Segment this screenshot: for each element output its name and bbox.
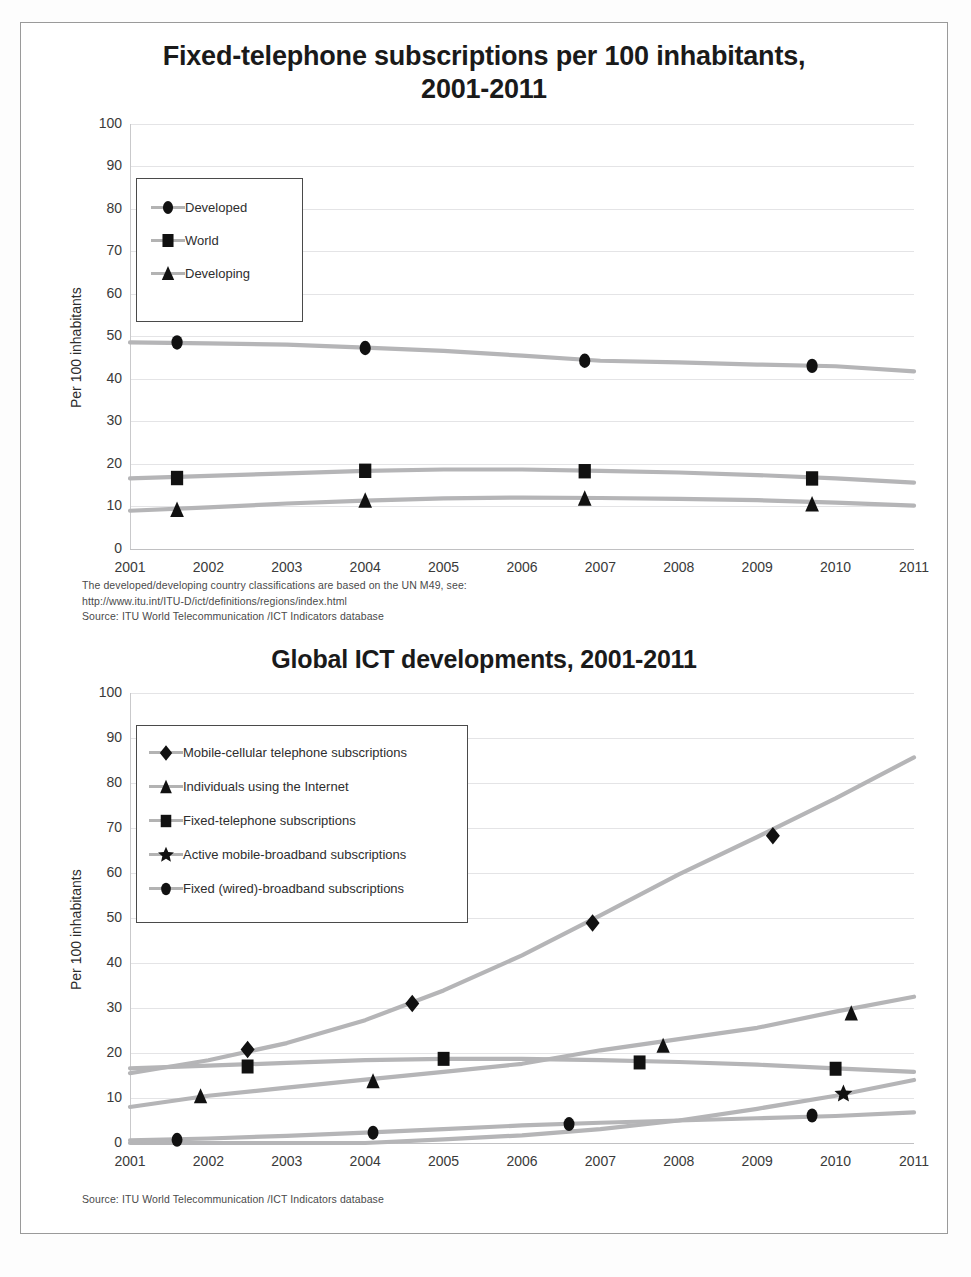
data-point-marker bbox=[806, 359, 817, 373]
data-point-marker bbox=[806, 471, 818, 485]
legend-marker-triangle-icon bbox=[149, 770, 183, 804]
chart1-title-line1: Fixed-telephone subscriptions per 100 in… bbox=[104, 40, 864, 73]
data-point-marker bbox=[438, 1051, 450, 1065]
x-tick-label: 2006 bbox=[492, 1153, 552, 1169]
x-tick-label: 2002 bbox=[178, 1153, 238, 1169]
x-tick-label: 2005 bbox=[414, 1153, 474, 1169]
gridline bbox=[130, 549, 914, 550]
legend-marker-circle-icon bbox=[151, 191, 185, 224]
x-tick-label: 2007 bbox=[570, 559, 630, 575]
chart1-title-line2: 2001-2011 bbox=[104, 73, 864, 106]
y-tick-label: 70 bbox=[86, 245, 122, 255]
chart2-y-axis-label: Per 100 inhabitants bbox=[68, 869, 84, 990]
x-tick-label: 2011 bbox=[884, 559, 944, 575]
y-tick-label: 80 bbox=[86, 203, 122, 213]
x-tick-label: 2002 bbox=[178, 559, 238, 575]
y-tick-label: 90 bbox=[86, 732, 122, 742]
data-point-marker bbox=[579, 464, 591, 478]
x-tick-label: 2009 bbox=[727, 559, 787, 575]
legend-marker-star-icon bbox=[149, 838, 183, 872]
legend-item[interactable]: Fixed (wired)-broadband subscriptions bbox=[137, 872, 467, 906]
data-point-marker bbox=[807, 1108, 818, 1122]
legend-marker-square-icon bbox=[151, 224, 185, 257]
x-tick-label: 2001 bbox=[100, 559, 160, 575]
x-tick-label: 2010 bbox=[806, 559, 866, 575]
chart-global-ict: Global ICT developments, 2001-2011 Per 1… bbox=[24, 640, 944, 1230]
y-tick-label: 20 bbox=[86, 458, 122, 468]
source-note: http://www.itu.int/ITU-D/ict/definitions… bbox=[82, 594, 347, 609]
series-line bbox=[130, 342, 914, 371]
series-line bbox=[130, 469, 914, 482]
data-point-marker bbox=[579, 353, 590, 367]
series-line bbox=[130, 497, 914, 510]
y-tick-label: 0 bbox=[86, 1137, 122, 1147]
y-tick-label: 10 bbox=[86, 1092, 122, 1102]
chart2-legend: Mobile-cellular telephone subscriptionsI… bbox=[136, 725, 468, 923]
y-tick-label: 30 bbox=[86, 1002, 122, 1012]
data-point-marker bbox=[634, 1055, 646, 1069]
y-tick-label: 90 bbox=[86, 160, 122, 170]
y-tick-label: 10 bbox=[86, 500, 122, 510]
chart1-legend: DevelopedWorldDeveloping bbox=[136, 178, 303, 322]
y-tick-label: 20 bbox=[86, 1047, 122, 1057]
y-tick-label: 40 bbox=[86, 373, 122, 383]
data-point-marker bbox=[171, 335, 182, 349]
x-tick-label: 2008 bbox=[649, 559, 709, 575]
legend-item[interactable]: Developed bbox=[137, 191, 302, 224]
data-point-marker bbox=[834, 1084, 852, 1101]
y-tick-label: 50 bbox=[86, 912, 122, 922]
x-tick-label: 2009 bbox=[727, 1153, 787, 1169]
legend-item[interactable]: Fixed-telephone subscriptions bbox=[137, 804, 467, 838]
legend-item[interactable]: Developing bbox=[137, 257, 302, 290]
legend-label: Mobile-cellular telephone subscriptions bbox=[183, 745, 407, 760]
y-tick-label: 0 bbox=[86, 543, 122, 553]
y-tick-label: 30 bbox=[86, 415, 122, 425]
source-note: Source: ITU World Telecommunication /ICT… bbox=[82, 609, 384, 624]
x-tick-label: 2006 bbox=[492, 559, 552, 575]
legend-item[interactable]: World bbox=[137, 224, 302, 257]
data-point-marker bbox=[171, 471, 183, 485]
x-tick-label: 2005 bbox=[414, 559, 474, 575]
chart1-title: Fixed-telephone subscriptions per 100 in… bbox=[104, 40, 864, 106]
legend-label: Developed bbox=[185, 200, 247, 215]
data-point-marker bbox=[172, 1132, 183, 1146]
x-tick-label: 2003 bbox=[257, 559, 317, 575]
y-tick-label: 100 bbox=[86, 118, 122, 128]
legend-label: Fixed-telephone subscriptions bbox=[183, 813, 356, 828]
data-point-marker bbox=[368, 1125, 379, 1139]
legend-marker-diamond-icon bbox=[149, 736, 183, 770]
x-tick-label: 2004 bbox=[335, 559, 395, 575]
legend-marker-triangle-icon bbox=[151, 257, 185, 290]
data-point-marker bbox=[359, 463, 371, 477]
source-note: The developed/developing country classif… bbox=[82, 578, 467, 593]
x-tick-label: 2010 bbox=[806, 1153, 866, 1169]
y-tick-label: 60 bbox=[86, 288, 122, 298]
y-tick-label: 60 bbox=[86, 867, 122, 877]
legend-label: Fixed (wired)-broadband subscriptions bbox=[183, 881, 404, 896]
legend-marker-circle-icon bbox=[149, 872, 183, 906]
x-tick-label: 2004 bbox=[335, 1153, 395, 1169]
legend-item[interactable]: Individuals using the Internet bbox=[137, 770, 467, 804]
source-note: Source: ITU World Telecommunication /ICT… bbox=[82, 1192, 384, 1207]
y-tick-label: 80 bbox=[86, 777, 122, 787]
y-tick-label: 70 bbox=[86, 822, 122, 832]
data-point-marker bbox=[242, 1059, 254, 1073]
y-tick-label: 100 bbox=[86, 687, 122, 697]
x-tick-label: 2001 bbox=[100, 1153, 160, 1169]
chart-fixed-telephone: Fixed-telephone subscriptions per 100 in… bbox=[24, 26, 944, 636]
chart2-plot-wrapper: Per 100 inhabitants 10090807060504030201… bbox=[24, 675, 944, 1177]
legend-label: Active mobile-broadband subscriptions bbox=[183, 847, 406, 862]
x-tick-label: 2008 bbox=[649, 1153, 709, 1169]
legend-label: Developing bbox=[185, 266, 250, 281]
data-point-marker bbox=[360, 341, 371, 355]
legend-item[interactable]: Mobile-cellular telephone subscriptions bbox=[137, 736, 467, 770]
legend-label: Individuals using the Internet bbox=[183, 779, 349, 794]
y-tick-label: 40 bbox=[86, 957, 122, 967]
legend-item[interactable]: Active mobile-broadband subscriptions bbox=[137, 838, 467, 872]
legend-label: World bbox=[185, 233, 219, 248]
document-page: Fixed-telephone subscriptions per 100 in… bbox=[0, 0, 971, 1277]
y-tick-label: 50 bbox=[86, 330, 122, 340]
x-tick-label: 2003 bbox=[257, 1153, 317, 1169]
x-tick-label: 2007 bbox=[570, 1153, 630, 1169]
data-point-marker bbox=[830, 1061, 842, 1075]
